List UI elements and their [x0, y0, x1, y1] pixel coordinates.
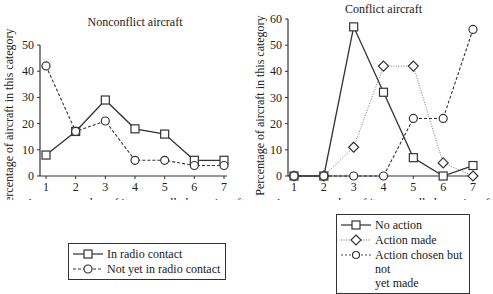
series-line: [294, 29, 473, 176]
legend-label: Not yet in radio contact: [107, 262, 220, 276]
x-tick-label: 3: [102, 180, 108, 194]
legend-item-action-chosen: Action chosen but notyet made: [341, 248, 465, 290]
legend-label: Action chosen but notyet made: [375, 248, 465, 290]
diamond-marker: [379, 61, 389, 71]
square-marker-icon: [73, 248, 103, 260]
square-marker-icon: [341, 219, 371, 231]
x-axis-label: Average number of items recalled per air…: [26, 196, 245, 200]
x-tick-label: 4: [132, 180, 138, 194]
circle-marker: [290, 172, 298, 180]
square-marker: [101, 96, 109, 104]
series-line: [46, 66, 224, 166]
diamond-marker-icon: [341, 234, 371, 246]
x-tick-label: 1: [43, 180, 49, 194]
legend-item-in-radio-contact: In radio contact: [73, 247, 221, 261]
x-tick-label: 4: [381, 180, 387, 194]
y-axis-label: Percentage of aircraft in this category: [2, 28, 16, 200]
chart-conflict: Conflict aircraft01020304050601234567Ave…: [250, 0, 493, 200]
y-tick-label: 20: [22, 117, 34, 131]
circle-marker: [469, 25, 477, 33]
y-tick-label: 60: [270, 12, 282, 26]
legend-nonconflict: In radio contact Not yet in radio contac…: [68, 243, 226, 280]
y-tick-label: 0: [276, 169, 282, 183]
series-line: [294, 27, 473, 176]
square-marker: [42, 151, 50, 159]
circle-marker: [220, 162, 228, 170]
circle-marker: [350, 172, 358, 180]
x-tick-label: 5: [162, 180, 168, 194]
y-tick-label: 40: [22, 64, 34, 78]
circle-marker: [409, 114, 417, 122]
x-tick-label: 6: [440, 180, 446, 194]
y-tick-label: 20: [270, 117, 282, 131]
x-tick-label: 1: [291, 180, 297, 194]
x-tick-label: 2: [73, 180, 79, 194]
y-tick-label: 10: [270, 143, 282, 157]
x-tick-label: 2: [321, 180, 327, 194]
legend-item-not-yet-in-radio-contact: Not yet in radio contact: [73, 262, 221, 276]
y-tick-label: 40: [270, 64, 282, 78]
circle-marker: [101, 117, 109, 125]
y-tick-label: 0: [28, 169, 34, 183]
circle-marker-icon: [341, 249, 371, 261]
legend-label: Action made: [375, 233, 437, 247]
x-tick-label: 3: [351, 180, 357, 194]
circle-marker: [161, 156, 169, 164]
square-marker: [439, 172, 447, 180]
x-tick-label: 5: [410, 180, 416, 194]
x-tick-label: 7: [221, 180, 227, 194]
legend-item-no-action: No action: [341, 218, 465, 232]
circle-marker-icon: [73, 263, 103, 275]
circle-marker: [131, 156, 139, 164]
circle-marker: [72, 127, 80, 135]
square-marker: [161, 130, 169, 138]
square-marker: [469, 162, 477, 170]
y-tick-label: 50: [22, 38, 34, 52]
chart-nonconflict: Nonconflict aircraft010203040501234567Av…: [0, 0, 250, 200]
y-axis-label: Percentage of aircraft in this category: [253, 15, 267, 195]
square-marker: [131, 125, 139, 133]
chart-title: Conflict aircraft: [345, 2, 423, 16]
y-tick-label: 30: [22, 90, 34, 104]
diamond-marker: [349, 142, 359, 152]
y-tick-label: 10: [22, 143, 34, 157]
x-axis-label: Average number of items recalled per air…: [274, 196, 493, 200]
circle-marker: [439, 114, 447, 122]
y-tick-label: 30: [270, 91, 282, 105]
legend-conflict: No action Action made Action chosen but …: [336, 214, 470, 294]
x-tick-label: 6: [191, 180, 197, 194]
diamond-marker: [438, 158, 448, 168]
legend-item-action-made: Action made: [341, 233, 465, 247]
y-tick-label: 50: [270, 38, 282, 52]
x-tick-label: 7: [470, 180, 476, 194]
circle-marker: [380, 172, 388, 180]
legend-label: No action: [375, 218, 422, 232]
circle-marker: [190, 162, 198, 170]
diamond-marker: [408, 61, 418, 71]
chart-title: Nonconflict aircraft: [88, 15, 184, 29]
circle-marker: [320, 172, 328, 180]
circle-marker: [42, 62, 50, 70]
square-marker: [350, 23, 358, 31]
square-marker: [409, 154, 417, 162]
legend-label: In radio contact: [107, 247, 182, 261]
square-marker: [380, 88, 388, 96]
